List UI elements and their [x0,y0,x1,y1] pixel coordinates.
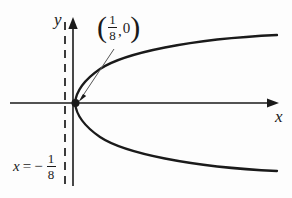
focus-leader-arrowhead [79,94,87,102]
focus-point-dot [72,99,80,107]
fraction-denominator: 8 [108,29,117,42]
one-eighth-fraction: 1 8 [108,13,117,43]
directrix-variable: x [13,159,20,174]
y-axis-arrowhead [68,17,77,29]
parabola-figure: y x ( 1 8 , 0 ) x = − 1 8 [0,0,292,198]
focus-point-label: ( 1 8 , 0 ) [97,13,140,43]
directrix-fraction-numerator: 1 [47,152,56,165]
directrix-equals: = [23,159,31,174]
directrix-label: x = − 1 8 [13,152,57,182]
directrix-fraction-denominator: 8 [47,168,56,181]
x-axis-label: x [275,108,283,125]
close-paren: ) [130,14,140,40]
label-zero-value: 0 [123,21,131,36]
directrix-one-eighth-fraction: 1 8 [47,152,56,182]
fraction-numerator: 1 [108,13,117,26]
open-paren: ( [97,14,107,40]
focus-leader-line [82,49,114,97]
parabola-lower-branch [75,103,277,171]
directrix-minus-sign: − [34,159,42,174]
parabola-upper-branch [75,35,277,103]
y-axis-label: y [54,11,62,28]
